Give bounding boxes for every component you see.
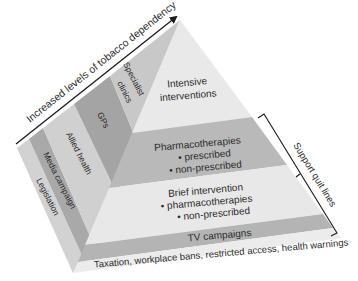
pyramid-diagram: Increased levels of tobacco dependency S… [0, 0, 358, 281]
tobacco-intervention-pyramid: Increased levels of tobacco dependency S… [0, 0, 358, 281]
bracket-tick [296, 174, 300, 177]
